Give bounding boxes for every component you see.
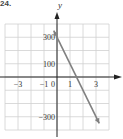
x-tick-labels: −3−1013 <box>14 80 98 89</box>
x-tick-label: 0 <box>51 80 55 89</box>
x-tick-label: −3 <box>14 80 23 89</box>
x-tick-label: 3 <box>94 80 98 89</box>
y-tick-label: −300 <box>38 113 55 122</box>
y-tick-label: 100 <box>43 60 55 69</box>
x-tick-label: 1 <box>68 80 72 89</box>
problem-number: 24. <box>0 0 11 8</box>
x-tick-label: −1 <box>40 80 49 89</box>
coordinate-plane: 24. y −3−1013 300100−300 <box>0 0 123 139</box>
y-tick-label: 300 <box>43 33 55 42</box>
y-axis-label: y <box>57 0 62 10</box>
y-axis-arrow-icon <box>55 12 60 19</box>
x-axis-arrow-icon <box>114 75 122 80</box>
